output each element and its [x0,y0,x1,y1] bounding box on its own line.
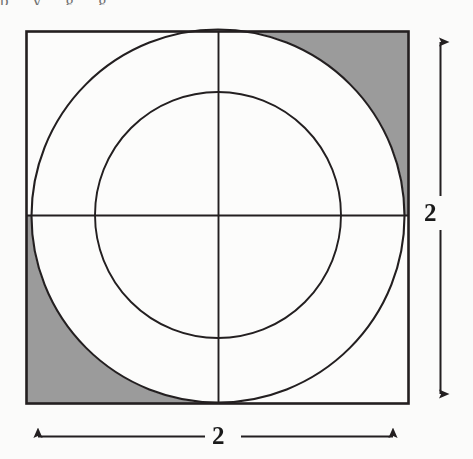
geometry-diagram-svg [0,0,473,459]
geometry-figure-canvas: p y g g [0,0,473,459]
horizontal-dimension-label: 2 [212,423,225,448]
vertical-dimension-label: 2 [424,200,437,225]
